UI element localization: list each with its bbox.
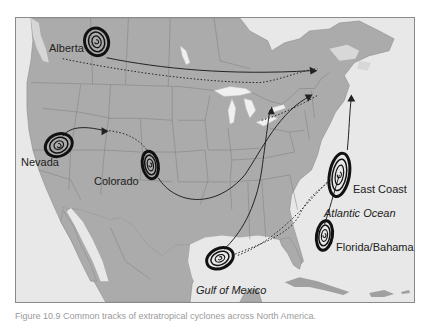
label-colorado: Colorado xyxy=(94,176,139,187)
figure-caption: Figure 10.9 Common tracks of extratropic… xyxy=(15,312,415,321)
label-alberta: Alberta xyxy=(49,43,84,54)
label-nevada: Nevada xyxy=(21,157,59,168)
label-gulf-of-mexico: Gulf of Mexico xyxy=(196,285,266,296)
north-america-map xyxy=(16,18,414,302)
label-east-coast: East Coast xyxy=(353,184,407,195)
map-frame: Alberta Nevada Colorado East Coast Atlan… xyxy=(15,17,415,303)
label-florida-bahamas: Florida/Bahamas xyxy=(336,242,415,253)
label-atlantic-ocean: Atlantic Ocean xyxy=(324,208,396,219)
